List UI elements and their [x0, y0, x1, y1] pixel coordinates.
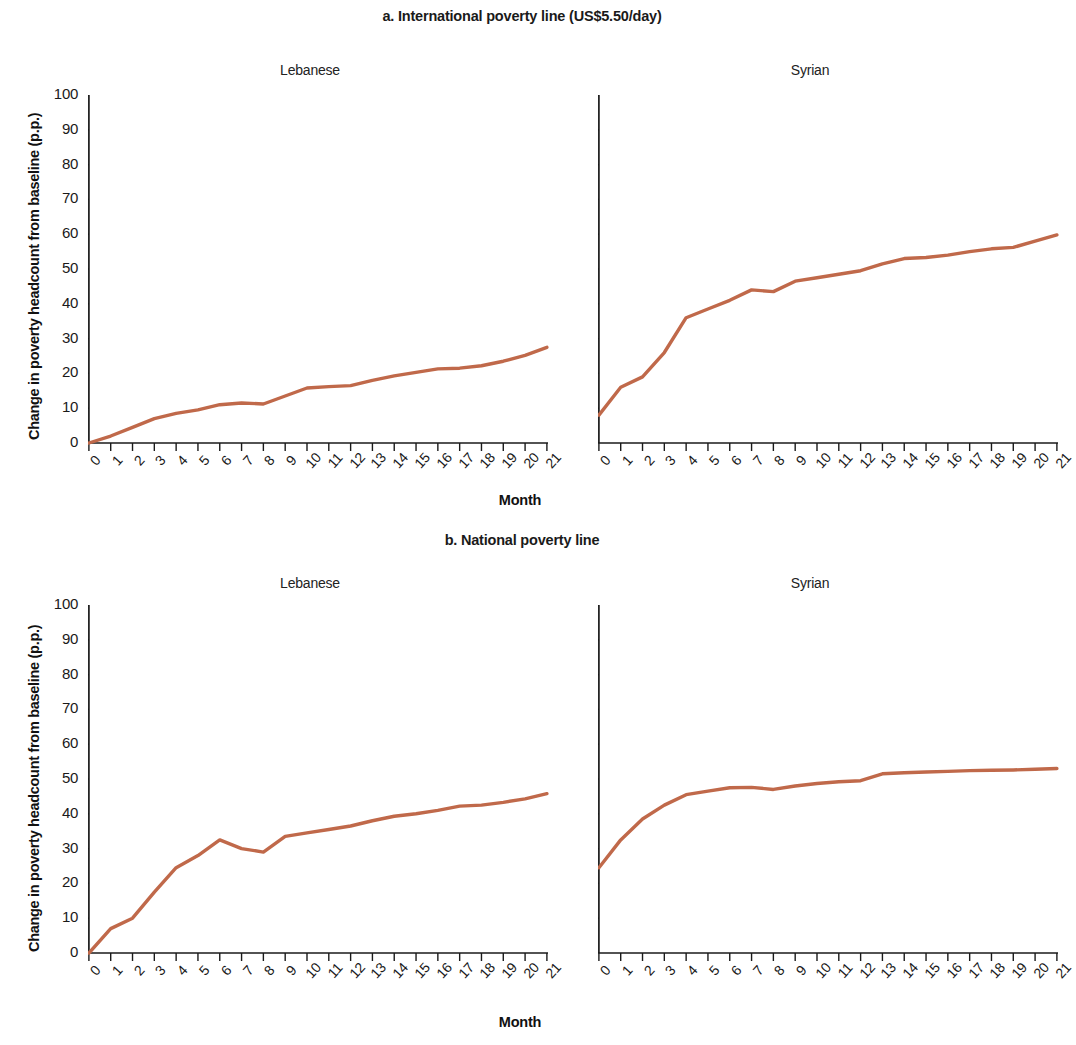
panel-a: a. International poverty line (US$5.50/d… — [0, 0, 1044, 522]
subpanel-title-a-lebanese: Lebanese — [160, 62, 460, 78]
subpanel-title-b-syrian: Syrian — [660, 575, 960, 591]
data-line-syrian — [599, 769, 1057, 868]
plot-area-b-syrian: 0123456789101112131415161718192021 — [598, 605, 1070, 969]
y-tick-label: 100 — [34, 85, 78, 102]
y-tick-label: 70 — [34, 189, 78, 206]
x-axis-label-a: Month — [460, 492, 580, 508]
y-tick-label: 20 — [34, 873, 78, 890]
y-tick-label: 60 — [34, 734, 78, 751]
y-tick-label: 0 — [34, 433, 78, 450]
y-tick-label: 20 — [34, 363, 78, 380]
data-line-lebanese — [89, 347, 547, 443]
plot-area-a-lebanese: 1009080706050403020100012345678910111213… — [88, 95, 560, 459]
y-tick-label: 50 — [34, 259, 78, 276]
plot-area-a-syrian: 0123456789101112131415161718192021 — [598, 95, 1070, 459]
y-tick-label: 100 — [34, 595, 78, 612]
y-tick-label: 70 — [34, 699, 78, 716]
y-tick-label: 80 — [34, 665, 78, 682]
y-tick-label: 30 — [34, 329, 78, 346]
panel-b-title: b. National poverty line — [0, 532, 1044, 548]
chart-svg — [598, 605, 1070, 969]
panel-a-title: a. International poverty line (US$5.50/d… — [0, 8, 1044, 24]
subpanel-title-b-lebanese: Lebanese — [160, 575, 460, 591]
chart-svg — [88, 95, 560, 459]
y-tick-label: 10 — [34, 398, 78, 415]
chart-svg — [88, 605, 560, 969]
data-line-lebanese — [89, 794, 547, 953]
chart-svg — [598, 95, 1070, 459]
y-tick-label: 50 — [34, 769, 78, 786]
plot-area-b-lebanese: 1009080706050403020100012345678910111213… — [88, 605, 560, 969]
y-tick-label: 60 — [34, 224, 78, 241]
x-axis-label-b: Month — [460, 1014, 580, 1030]
y-tick-label: 0 — [34, 943, 78, 960]
y-tick-label: 90 — [34, 630, 78, 647]
panel-b: b. National poverty line Lebanese Syrian… — [0, 522, 1044, 1045]
data-line-syrian — [599, 235, 1057, 415]
y-tick-label: 80 — [34, 155, 78, 172]
y-tick-label: 40 — [34, 804, 78, 821]
y-tick-label: 30 — [34, 839, 78, 856]
y-tick-label: 40 — [34, 294, 78, 311]
y-tick-label: 90 — [34, 120, 78, 137]
y-tick-label: 10 — [34, 908, 78, 925]
subpanel-title-a-syrian: Syrian — [660, 62, 960, 78]
